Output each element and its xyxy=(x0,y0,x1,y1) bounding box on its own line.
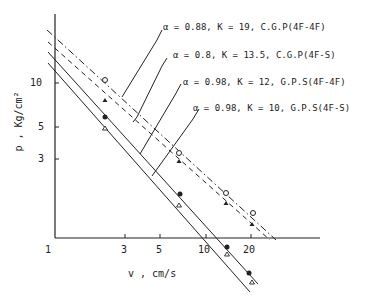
legend-label-series-2: α = 0.98, K = 12, G.P.S(4F-4F) xyxy=(183,77,346,87)
x-tick-label-3: 3 xyxy=(121,244,127,255)
y-tick-label-10: 10 xyxy=(30,77,42,88)
x-tick-label-10: 10 xyxy=(198,244,210,255)
y-tick-label-5: 5 xyxy=(38,121,44,132)
y-axis-label: p , Kg/cm² xyxy=(13,91,24,151)
series-markers-3 xyxy=(103,126,255,284)
legend-label-series-0: α = 0.88, K = 19, C.G.P(4F-4F) xyxy=(163,22,326,32)
x-tick-label-5: 5 xyxy=(156,244,162,255)
x-tick-label-20: 20 xyxy=(243,244,255,255)
series-line-0 xyxy=(47,30,276,240)
plot-canvas xyxy=(0,0,377,304)
x-tick-label-1: 1 xyxy=(45,244,51,255)
y-tick-label-3: 3 xyxy=(38,153,44,164)
series-line-3 xyxy=(48,63,250,292)
legend-label-series-1: α = 0.8, K = 13.5, C.G.P(4F-S) xyxy=(173,50,336,60)
legend-label-series-3: α = 0.98, K = 10, G.P.S(4F-S) xyxy=(193,103,350,113)
x-axis-label: v , cm/s xyxy=(128,268,176,279)
